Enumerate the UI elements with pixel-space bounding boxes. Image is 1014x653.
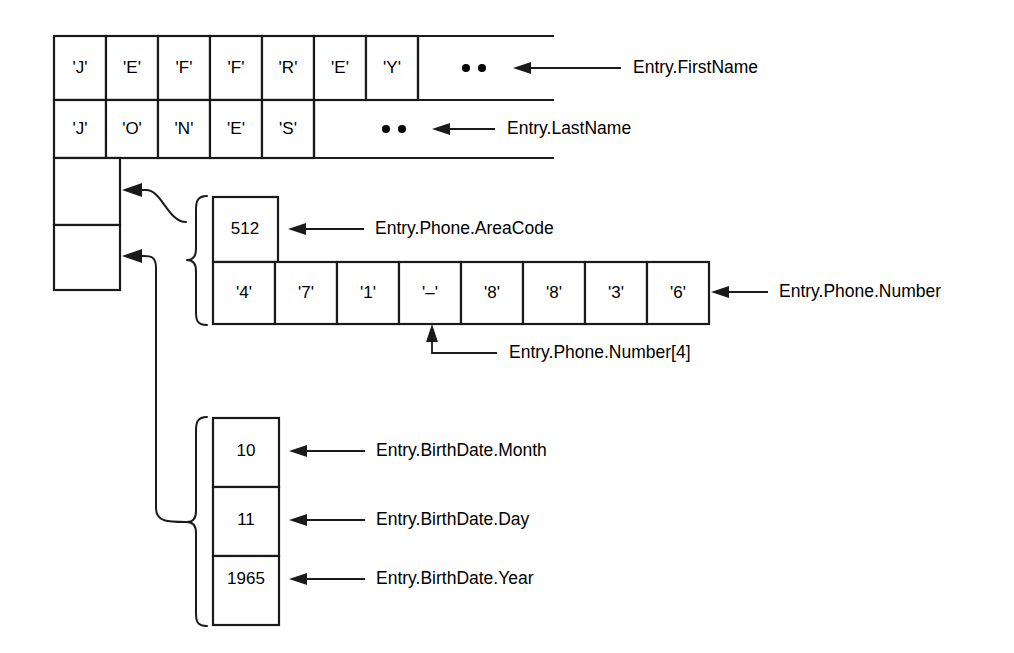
first-name-null-terminator-icon	[462, 64, 486, 72]
phone-number-char-0: '4'	[236, 283, 252, 302]
last-name-null-terminator-icon	[382, 125, 406, 133]
first-name-arrowhead-icon	[513, 62, 531, 74]
phone-number-index-leader-line	[432, 340, 497, 353]
birthdate-year-value: 1965	[227, 569, 265, 588]
phone-number-label: Entry.Phone.Number	[779, 281, 941, 301]
first-name-array: 'J' 'E' 'F' 'F' 'R' 'E' 'Y' Entry.FirstN…	[54, 36, 758, 100]
first-name-char-0: 'J'	[73, 58, 88, 77]
phone-number-index-label: Entry.Phone.Number[4]	[509, 342, 691, 362]
phone-number-char-2: '1'	[360, 283, 376, 302]
phone-number-array: '4' '7' '1' '–' '8' '8' '3' '6' Entry.Ph…	[213, 262, 941, 324]
first-name-char-1: 'E'	[123, 58, 141, 77]
birthdate-month-callout: Entry.BirthDate.Month	[289, 440, 547, 460]
birthdate-pointer-arrowhead-icon	[122, 249, 142, 263]
first-name-char-5: 'E'	[331, 58, 349, 77]
last-name-arrowhead-icon	[432, 123, 450, 135]
pointer-slot-column	[54, 158, 120, 290]
first-name-callout: Entry.FirstName	[513, 57, 758, 77]
last-name-char-4: 'S'	[279, 119, 297, 138]
birthdate-day-callout: Entry.BirthDate.Day	[289, 509, 530, 529]
last-name-label: Entry.LastName	[507, 118, 631, 138]
memory-layout-canvas: 'J' 'E' 'F' 'F' 'R' 'E' 'Y' Entry.FirstN…	[0, 0, 1014, 653]
phone-number-index-callout: Entry.Phone.Number[4]	[426, 324, 691, 362]
birthdate-day-arrowhead-icon	[289, 514, 307, 526]
phone-pointer-arrowhead-icon	[122, 183, 142, 197]
phone-group-brace	[187, 196, 207, 325]
last-name-char-0: 'J'	[73, 119, 88, 138]
first-name-label: Entry.FirstName	[633, 57, 758, 77]
phone-number-char-4: '8'	[484, 283, 500, 302]
birthdate-pointer-arrow	[122, 249, 186, 522]
last-name-callout: Entry.LastName	[432, 118, 631, 138]
phone-number-char-3: '–'	[422, 283, 438, 302]
birthdate-pointer-slot	[54, 225, 120, 290]
phone-area-code-arrowhead-icon	[288, 223, 306, 235]
memory-layout-diagram: 'J' 'E' 'F' 'F' 'R' 'E' 'Y' Entry.FirstN…	[0, 0, 1014, 653]
first-name-char-4: 'R'	[279, 58, 298, 77]
birthdate-day-value: 11	[237, 510, 255, 529]
birthdate-year-arrowhead-icon	[289, 573, 307, 585]
birthdate-brace-shape	[187, 417, 207, 626]
phone-pointer-curve	[140, 190, 186, 222]
birthdate-pointer-curve	[140, 256, 186, 522]
phone-number-index-arrowhead-icon	[426, 324, 438, 342]
phone-area-code-group: 512 Entry.Phone.AreaCode	[213, 197, 554, 262]
phone-number-char-5: '8'	[546, 283, 562, 302]
birthdate-group-brace	[187, 417, 207, 626]
last-name-char-2: 'N'	[175, 119, 194, 138]
phone-number-arrowhead-icon	[711, 286, 729, 298]
phone-pointer-arrow	[122, 183, 186, 222]
birthdate-struct: 10 11 1965 Entry.BirthDate.Month Entry.B…	[213, 418, 547, 625]
phone-number-char-7: '6'	[670, 283, 686, 302]
phone-area-code-value: 512	[231, 219, 259, 238]
first-name-char-6: 'Y'	[383, 58, 401, 77]
phone-number-char-6: '3'	[608, 283, 624, 302]
first-name-char-3: 'F'	[228, 58, 245, 77]
phone-number-char-1: '7'	[298, 283, 314, 302]
birthdate-month-value: 10	[237, 441, 256, 460]
last-name-array: 'J' 'O' 'N' 'E' 'S' Entry.LastName	[54, 100, 631, 158]
birthdate-day-label: Entry.BirthDate.Day	[376, 509, 530, 529]
last-name-char-3: 'E'	[227, 119, 245, 138]
phone-area-code-label: Entry.Phone.AreaCode	[375, 218, 554, 238]
phone-number-callout: Entry.Phone.Number	[711, 281, 941, 301]
phone-pointer-slot	[54, 158, 120, 225]
phone-area-code-callout: Entry.Phone.AreaCode	[288, 218, 554, 238]
phone-brace-shape	[187, 196, 207, 325]
last-name-char-1: 'O'	[122, 119, 142, 138]
birthdate-year-box	[213, 556, 279, 625]
birthdate-year-callout: Entry.BirthDate.Year	[289, 568, 534, 588]
first-name-char-2: 'F'	[176, 58, 193, 77]
birthdate-year-label: Entry.BirthDate.Year	[376, 568, 534, 588]
birthdate-month-label: Entry.BirthDate.Month	[376, 440, 547, 460]
birthdate-month-arrowhead-icon	[289, 445, 307, 457]
